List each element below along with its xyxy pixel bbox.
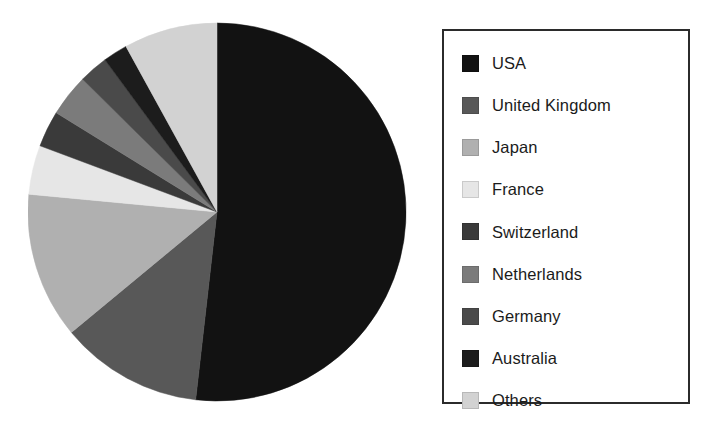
legend-item[interactable]: USA <box>462 42 682 84</box>
legend-swatch-others-icon <box>462 392 479 409</box>
legend-item[interactable]: Japan <box>462 126 682 168</box>
legend-item[interactable]: Switzerland <box>462 211 682 253</box>
pie-slice[interactable] <box>196 23 406 401</box>
legend-swatch-germany-icon <box>462 308 479 325</box>
legend-swatch-japan-icon <box>462 139 479 156</box>
legend-item-label: France <box>492 181 544 198</box>
legend-box: USAUnited KingdomJapanFranceSwitzerlandN… <box>442 29 690 404</box>
legend-item-label: Australia <box>492 350 557 367</box>
legend-swatch-france-icon <box>462 181 479 198</box>
legend-item[interactable]: Netherlands <box>462 253 682 295</box>
legend-item[interactable]: United Kingdom <box>462 84 682 126</box>
pie-chart-svg <box>28 18 412 412</box>
legend-swatch-netherlands-icon <box>462 266 479 283</box>
legend-item-label: USA <box>492 55 526 72</box>
legend-item-label: Switzerland <box>492 224 578 241</box>
legend-item[interactable]: Germany <box>462 295 682 337</box>
pie-chart-figure: USAUnited KingdomJapanFranceSwitzerlandN… <box>0 0 715 430</box>
legend-item-label: Japan <box>492 139 537 156</box>
legend-item[interactable]: France <box>462 169 682 211</box>
legend-list: USAUnited KingdomJapanFranceSwitzerlandN… <box>462 42 682 422</box>
legend-swatch-switzerland-icon <box>462 223 479 240</box>
pie-chart-plot-area <box>28 18 412 412</box>
legend-item-label: United Kingdom <box>492 97 611 114</box>
legend-item[interactable]: Others <box>462 380 682 422</box>
legend-swatch-usa-icon <box>462 55 479 72</box>
legend-item[interactable]: Australia <box>462 337 682 379</box>
legend-item-label: Others <box>492 392 542 409</box>
pie-slice-group <box>28 23 406 401</box>
legend-swatch-australia-icon <box>462 350 479 367</box>
legend-item-label: Germany <box>492 308 561 325</box>
legend-swatch-united-kingdom-icon <box>462 97 479 114</box>
legend-item-label: Netherlands <box>492 266 582 283</box>
